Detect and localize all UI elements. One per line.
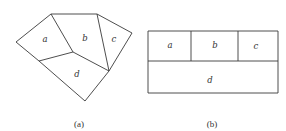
edge-b-c (97, 14, 109, 71)
region-label-b: b (82, 33, 87, 43)
cell-label-c: c (254, 41, 259, 51)
diagram-canvas: a b c d (a) a b c d (b) (0, 0, 286, 131)
outer-polygon (16, 14, 132, 101)
region-label-c: c (112, 34, 117, 44)
caption-b: (b) (207, 119, 218, 129)
cell-label-a: a (167, 40, 172, 50)
edge-a-d (39, 52, 73, 61)
region-label-d: d (74, 69, 80, 79)
cell-label-d: d (207, 75, 213, 85)
caption-a: (a) (74, 119, 84, 129)
cell-label-b: b (212, 40, 217, 50)
panel-a: a b c d (a) (16, 14, 132, 129)
edge-a-b (51, 14, 73, 52)
region-label-a: a (42, 34, 47, 44)
panel-b: a b c d (b) (148, 31, 278, 129)
